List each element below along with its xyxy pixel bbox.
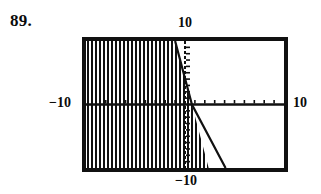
problem-number: 89. [10,11,32,31]
calculator-screen [82,37,288,172]
plot-canvas [86,41,284,168]
axis-label-top: 10 [178,15,192,30]
axis-label-bottom: −10 [175,173,197,188]
plot-svg [86,41,284,168]
axis-label-right: 10 [293,95,307,110]
figure-89: 89. 10 −10 10 −10 [0,0,321,194]
axis-label-left: −10 [49,95,71,110]
